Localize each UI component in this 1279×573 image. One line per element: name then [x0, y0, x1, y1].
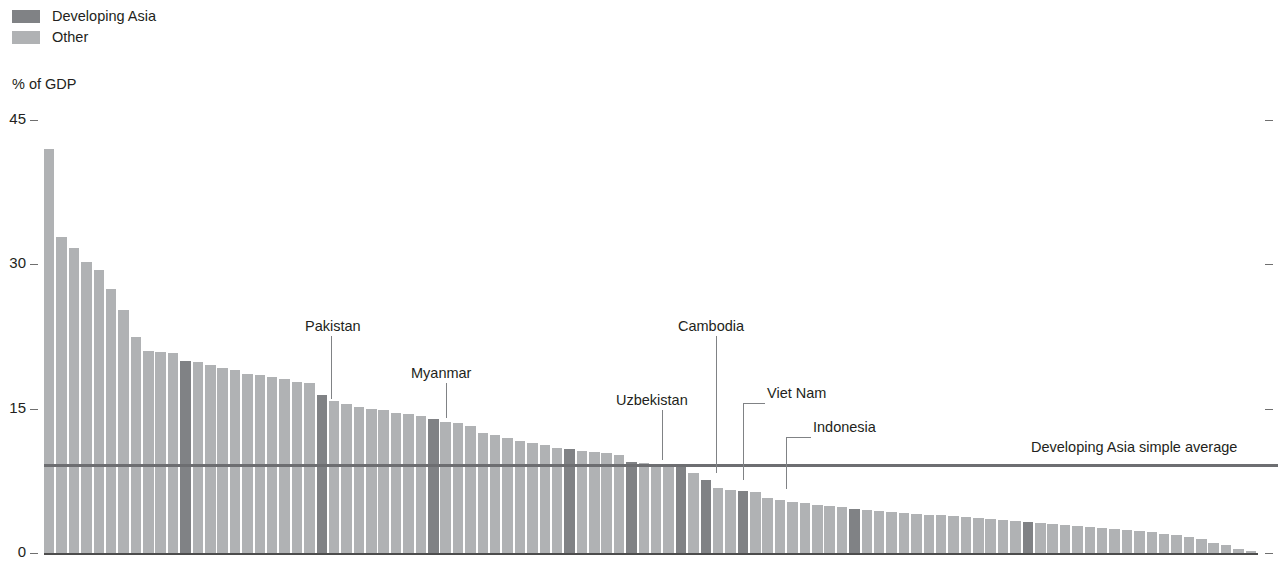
bar	[1010, 521, 1020, 553]
bar	[193, 362, 203, 553]
bar	[874, 511, 884, 553]
bar	[478, 433, 488, 553]
bar	[94, 270, 104, 553]
bar	[180, 361, 190, 553]
bar	[775, 500, 785, 553]
bar	[205, 365, 215, 553]
bar	[998, 520, 1008, 553]
bar	[924, 515, 934, 553]
bar	[1097, 528, 1107, 553]
callout-leader-line	[662, 410, 663, 460]
y-axis-tick-mark-right	[1265, 264, 1273, 265]
bar	[317, 395, 327, 553]
bar	[676, 466, 686, 553]
bar	[787, 502, 797, 553]
plot-area	[44, 120, 1258, 553]
callout-leader-line	[331, 336, 332, 399]
bar	[1047, 524, 1057, 553]
bar	[886, 512, 896, 553]
bar	[626, 462, 636, 553]
bar	[354, 407, 364, 553]
y-axis-tick-mark-right	[1265, 409, 1273, 410]
callout-label-pakistan: Pakistan	[305, 318, 361, 334]
bar	[403, 414, 413, 553]
callout-label-cambodia: Cambodia	[678, 318, 744, 334]
callout-label-indonesia: Indonesia	[813, 419, 876, 435]
y-axis-unit-label: % of GDP	[12, 76, 76, 92]
bar	[502, 438, 512, 553]
bar	[428, 419, 438, 553]
y-axis-tick-label: 30	[0, 254, 26, 271]
bar	[899, 513, 909, 553]
bar	[106, 289, 116, 553]
bar	[800, 503, 810, 553]
callout-label-myanmar: Myanmar	[411, 365, 471, 381]
callout-label-uzbekistan: Uzbekistan	[616, 392, 688, 408]
bar	[131, 337, 141, 553]
legend-label-other: Other	[52, 30, 88, 45]
bar	[416, 416, 426, 553]
bar	[304, 383, 314, 553]
bar	[1196, 539, 1206, 553]
bar	[440, 422, 450, 553]
bar	[465, 426, 475, 553]
callout-leader-line	[716, 336, 717, 473]
y-axis-tick-mark-right	[1265, 553, 1273, 554]
bar	[230, 370, 240, 553]
y-axis-tick-mark-left	[30, 264, 38, 265]
bar	[651, 464, 661, 553]
bar	[812, 505, 822, 553]
y-axis-tick-label: 15	[0, 399, 26, 416]
bar	[143, 351, 153, 553]
legend-swatch-developing-asia	[12, 10, 40, 23]
bar	[1023, 522, 1033, 553]
bar	[973, 518, 983, 553]
legend-label-developing-asia: Developing Asia	[52, 9, 156, 24]
bar	[217, 368, 227, 553]
bar	[329, 401, 339, 553]
callout-leader-line	[446, 383, 447, 418]
bar	[701, 480, 711, 553]
bar	[762, 498, 772, 553]
bar-group	[44, 120, 1258, 553]
bar	[985, 519, 995, 553]
bar	[601, 453, 611, 553]
bar	[341, 404, 351, 553]
bar	[1221, 545, 1231, 553]
bar	[44, 149, 54, 553]
chart-container: Developing Asia Other % of GDP Developin…	[0, 0, 1279, 573]
x-axis-baseline	[44, 553, 1258, 555]
bar	[1159, 534, 1169, 553]
bar	[490, 435, 500, 553]
bar	[961, 517, 971, 553]
bar	[639, 463, 649, 553]
bar	[1208, 543, 1218, 553]
bar	[1072, 526, 1082, 553]
legend-item-other: Other	[12, 27, 412, 48]
bar	[837, 507, 847, 553]
y-axis-tick-mark-left	[30, 553, 38, 554]
bar	[1109, 529, 1119, 553]
bar	[453, 423, 463, 553]
bar	[56, 237, 66, 553]
bar	[515, 441, 525, 553]
bar	[862, 510, 872, 553]
bar	[849, 509, 859, 553]
bar	[527, 443, 537, 553]
callout-leader-line	[786, 437, 787, 489]
bar	[366, 409, 376, 553]
bar	[738, 491, 748, 553]
bar	[948, 516, 958, 553]
bar	[378, 410, 388, 553]
callout-leader-line	[743, 403, 744, 480]
bar	[824, 506, 834, 553]
legend-item-developing-asia: Developing Asia	[12, 6, 412, 27]
bar	[688, 473, 698, 553]
chart-legend: Developing Asia Other	[12, 6, 412, 48]
bar	[155, 352, 165, 553]
bar	[1171, 535, 1181, 553]
bar	[725, 490, 735, 554]
bar	[1085, 527, 1095, 553]
y-axis-tick-label: 45	[0, 110, 26, 127]
bar	[911, 514, 921, 553]
